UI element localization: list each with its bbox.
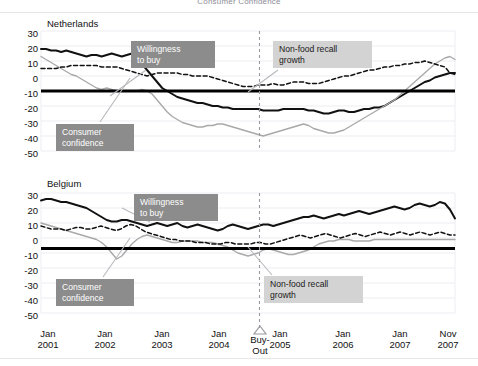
x-tick-3-line1: Jan bbox=[211, 328, 226, 339]
callout-netherlands-non-food-recall-growth: Non-food recall growth bbox=[273, 41, 372, 68]
x-tick-0: Jan 2001 bbox=[26, 328, 70, 350]
x-tick-6-line2: 2007 bbox=[389, 339, 410, 350]
callout-belgium-willingness-to-buy: Willingness to buy bbox=[134, 194, 218, 221]
chart-figure: Consumer Confidence Netherlands Belgium … bbox=[0, 0, 478, 366]
buyout-label-line1: Buy- bbox=[250, 334, 270, 345]
x-tick-7-line2: 2007 bbox=[437, 339, 458, 350]
x-tick-6: Jan 2007 bbox=[378, 328, 422, 350]
x-tick-1-line2: 2002 bbox=[94, 339, 115, 350]
x-tick-3: Jan 2004 bbox=[197, 328, 241, 350]
callout-belgium-consumer-confidence: Consumer confidence bbox=[56, 279, 134, 306]
series-line-non-food-recall-growth bbox=[41, 61, 455, 87]
triangle-up-icon bbox=[254, 326, 266, 334]
x-tick-6-line1: Jan bbox=[392, 328, 407, 339]
x-tick-7: Nov 2007 bbox=[426, 328, 470, 350]
x-tick-5: Jan 2006 bbox=[321, 328, 365, 350]
series-line-willingness-to-buy bbox=[41, 49, 455, 114]
series-line-non-food-recall-growth bbox=[41, 225, 455, 245]
x-tick-5-line1: Jan bbox=[335, 328, 350, 339]
x-tick-1: Jan 2002 bbox=[83, 328, 127, 350]
x-tick-2-line1: Jan bbox=[154, 328, 169, 339]
buyout-label-line2: Out bbox=[252, 345, 267, 356]
series-line-willingness-to-buy bbox=[41, 199, 455, 231]
x-tick-0-line2: 2001 bbox=[37, 339, 58, 350]
callout-netherlands-consumer-confidence: Consumer confidence bbox=[56, 124, 134, 151]
x-tick-2: Jan 2003 bbox=[140, 328, 184, 350]
x-tick-7-line1: Nov bbox=[440, 328, 457, 339]
x-tick-1-line1: Jan bbox=[97, 328, 112, 339]
callout-netherlands-willingness-to-buy: Willingness to buy bbox=[131, 41, 215, 68]
callout-leader-line bbox=[248, 70, 278, 92]
plot-surface bbox=[0, 0, 478, 366]
x-tick-0-line1: Jan bbox=[40, 328, 55, 339]
x-tick-5-line2: 2006 bbox=[332, 339, 353, 350]
x-tick-2-line2: 2003 bbox=[151, 339, 172, 350]
callout-leader-line bbox=[103, 238, 130, 277]
callout-leader-line bbox=[100, 78, 130, 122]
buyout-label: Buy- Out bbox=[243, 334, 277, 356]
callout-belgium-non-food-recall-growth: Non-food recall growth bbox=[264, 276, 363, 303]
x-tick-3-line2: 2004 bbox=[208, 339, 229, 350]
